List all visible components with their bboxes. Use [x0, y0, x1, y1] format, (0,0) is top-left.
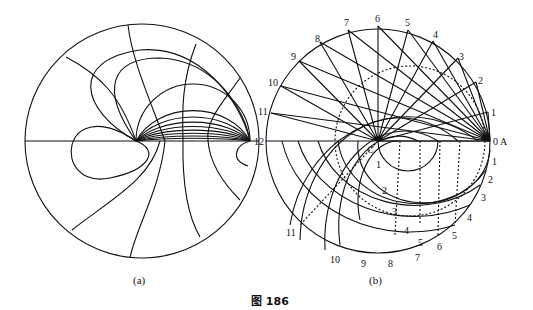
lower-label: 6 [437, 242, 442, 252]
panel-b-label: (b) [369, 274, 382, 286]
upper-label: 11 [258, 107, 268, 117]
panel-b-diagram [266, 26, 490, 253]
lower-label: 10 [330, 255, 340, 265]
ray-lines [271, 26, 490, 141]
panel-a-diagram [25, 24, 259, 258]
upper-label: 3 [459, 52, 464, 62]
lower-label: 8 [388, 259, 393, 269]
upper-label: 5 [405, 18, 410, 28]
upper-label: 9 [291, 52, 296, 62]
upper-label: 6 [375, 14, 380, 24]
diagram-canvas [0, 0, 533, 310]
lower-label: 11 [286, 228, 296, 238]
lower-label: 3 [481, 193, 486, 203]
lower-label: 9 [361, 259, 366, 269]
lower-label: 4 [467, 213, 472, 223]
upper-label: 1 [491, 108, 496, 118]
upper-label: 12 [254, 137, 264, 147]
lower-label: 5 [452, 231, 457, 241]
inner-label: 1 [376, 160, 381, 170]
figure-caption: 图 186 [251, 292, 289, 308]
inner-label: 5 [418, 238, 423, 248]
lower-label: 7 [415, 253, 420, 263]
upper-label: 8 [315, 34, 320, 44]
upper-label: 7 [344, 18, 349, 28]
upper-label: 2 [478, 76, 483, 86]
lower-label: 1 [492, 157, 497, 167]
upper-label: 4 [433, 30, 438, 40]
upper-label: 10 [268, 78, 278, 88]
point-a-label: 0 A [493, 137, 507, 147]
point-c-label: C [367, 145, 374, 155]
inner-label: 3 [392, 207, 397, 217]
panel-a-label: (a) [133, 274, 145, 286]
inner-label: 4 [404, 226, 409, 236]
inner-label: 2 [382, 186, 387, 196]
lower-label: 2 [488, 175, 493, 185]
